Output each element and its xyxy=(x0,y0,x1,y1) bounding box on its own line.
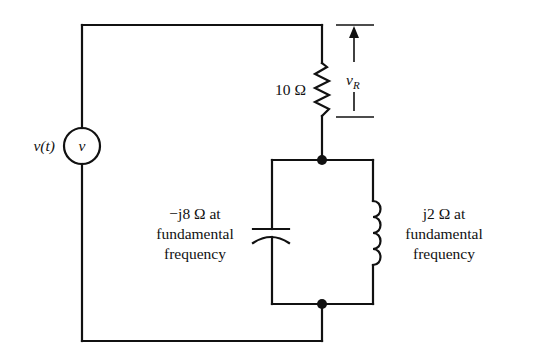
capacitor-label-line2: fundamental xyxy=(156,225,233,242)
inductor-label-line3: frequency xyxy=(413,245,475,262)
circuit-diagram: v v(t) 10 Ω vR xyxy=(0,0,533,354)
source-name-label: v(t) xyxy=(33,137,55,155)
capacitor-label-line1: −j8 Ω at xyxy=(169,205,221,222)
wires xyxy=(82,25,322,341)
bottom-node-dot-icon xyxy=(317,299,327,309)
vr-arrow-head-icon xyxy=(349,26,359,38)
resistor-value-label: 10 Ω xyxy=(275,81,306,98)
inductor-label-line1: j2 Ω at xyxy=(422,205,466,222)
vr-label: vR xyxy=(346,71,360,91)
source-symbol-label: v xyxy=(79,137,86,154)
parallel-branch xyxy=(272,155,373,309)
inductor-label-line2: fundamental xyxy=(405,225,482,242)
resistor-zigzag-icon xyxy=(315,63,329,116)
inductor-coil-icon xyxy=(373,201,381,265)
voltage-source: v v(t) xyxy=(33,128,100,164)
capacitor-label-line3: frequency xyxy=(164,245,226,262)
capacitor: −j8 Ω at fundamental frequency xyxy=(156,160,289,304)
top-node-dot-icon xyxy=(317,155,327,165)
inductor: j2 Ω at fundamental frequency xyxy=(373,160,483,304)
resistor: 10 Ω xyxy=(275,63,329,116)
vr-indicator: vR xyxy=(336,25,374,117)
